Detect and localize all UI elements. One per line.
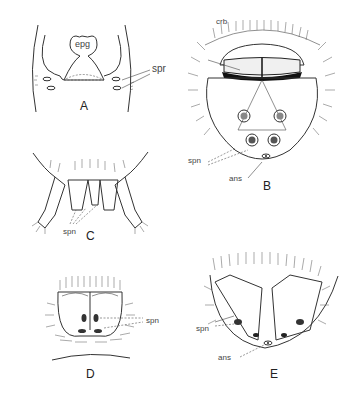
panel-d-drawing: [45, 276, 143, 360]
label-epg: epg: [75, 40, 90, 49]
label-spn-c: spn: [63, 228, 76, 236]
panel-label-e: E: [270, 368, 278, 380]
panel-c-drawing: [32, 152, 148, 234]
label-spr: spr: [152, 64, 166, 74]
panel-b-drawing: [188, 20, 335, 178]
panel-label-d: D: [86, 368, 95, 380]
label-ans-e: ans: [218, 354, 231, 362]
panel-label-c: C: [86, 230, 95, 242]
panel-e-drawing: [204, 252, 338, 357]
label-spn-d: spn: [146, 317, 159, 325]
label-ans-b: ans: [229, 175, 242, 183]
label-crb: crb: [216, 18, 227, 26]
panel-label-a: A: [80, 100, 88, 112]
figure-drawings: [0, 0, 359, 394]
panel-a-drawing: [32, 25, 150, 112]
label-spn-b: spn: [188, 157, 201, 165]
label-spn-e: spn: [196, 325, 209, 333]
panel-label-b: B: [263, 180, 271, 192]
